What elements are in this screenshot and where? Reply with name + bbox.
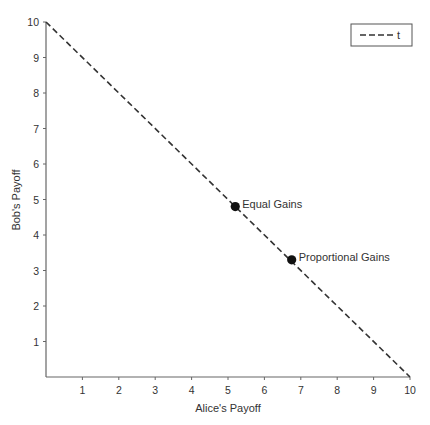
y-tick-label: 4 (33, 229, 39, 241)
chart-svg: 12345678910 12345678910 Equal GainsPropo… (0, 0, 430, 425)
x-tick-label: 10 (404, 384, 416, 396)
y-tick-label: 1 (33, 336, 39, 348)
x-tick-label: 6 (261, 384, 267, 396)
data-point-label: Proportional Gains (299, 251, 391, 263)
x-tick-label: 8 (334, 384, 340, 396)
x-tick-label: 1 (79, 384, 85, 396)
x-axis-label: Alice's Payoff (195, 402, 261, 414)
x-axis-ticks: 12345678910 (79, 377, 416, 396)
x-tick-label: 9 (371, 384, 377, 396)
legend: t (351, 24, 412, 46)
chart: 12345678910 12345678910 Equal GainsPropo… (0, 0, 430, 425)
y-tick-label: 10 (27, 16, 39, 28)
x-tick-label: 5 (225, 384, 231, 396)
x-tick-label: 3 (152, 384, 158, 396)
y-tick-label: 8 (33, 87, 39, 99)
y-tick-label: 6 (33, 158, 39, 170)
y-tick-label: 7 (33, 123, 39, 135)
y-tick-label: 5 (33, 194, 39, 206)
series-line-t (46, 22, 410, 377)
data-points: Equal GainsProportional Gains (231, 198, 391, 265)
y-tick-label: 2 (33, 300, 39, 312)
y-axis-label: Bob's Payoff (10, 168, 22, 230)
data-point-marker (287, 255, 296, 264)
data-point-marker (231, 202, 240, 211)
y-tick-label: 3 (33, 265, 39, 277)
legend-label: t (397, 29, 400, 41)
y-tick-label: 9 (33, 52, 39, 64)
series-lines (46, 22, 410, 377)
x-tick-label: 7 (298, 384, 304, 396)
y-axis-ticks: 12345678910 (27, 16, 46, 348)
x-tick-label: 4 (189, 384, 195, 396)
data-point-label: Equal Gains (242, 198, 302, 210)
x-tick-label: 2 (116, 384, 122, 396)
